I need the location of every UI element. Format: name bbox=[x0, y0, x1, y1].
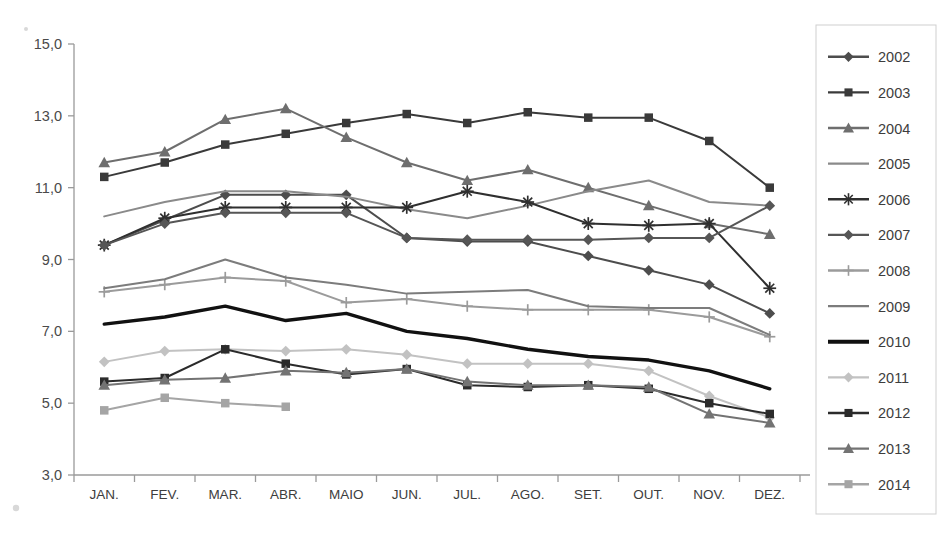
legend-label: 2002 bbox=[878, 49, 910, 65]
chart-legend: 2002200320042005200620072008200920102011… bbox=[816, 25, 936, 514]
data-point-marker-plus bbox=[522, 304, 533, 315]
x-tick-label: NOV. bbox=[693, 487, 725, 502]
y-tick-label: 13,0 bbox=[34, 108, 62, 124]
data-point-marker-square bbox=[645, 113, 654, 122]
data-point-marker-diamond bbox=[643, 265, 654, 276]
series-2014 bbox=[100, 394, 290, 415]
data-point-marker-square bbox=[844, 88, 852, 96]
data-point-marker-star bbox=[842, 193, 854, 205]
data-point-marker-square bbox=[766, 410, 775, 419]
y-tick-label: 15,0 bbox=[34, 36, 62, 52]
data-point-marker-star bbox=[642, 219, 655, 232]
data-point-marker-triangle bbox=[522, 164, 534, 174]
data-point-marker-square bbox=[403, 110, 412, 119]
data-point-marker-triangle bbox=[159, 146, 171, 156]
data-point-marker-triangle bbox=[703, 408, 715, 418]
data-point-marker-square bbox=[161, 394, 170, 403]
data-point-marker-plus bbox=[220, 272, 231, 283]
y-tick-label: 3,0 bbox=[42, 467, 62, 483]
data-point-marker-diamond bbox=[643, 365, 654, 376]
speck-dot bbox=[13, 505, 19, 511]
data-point-marker-square bbox=[221, 399, 230, 408]
data-point-marker-diamond bbox=[764, 308, 775, 319]
data-point-marker-diamond bbox=[583, 234, 594, 245]
x-tick-label: MAR. bbox=[208, 487, 242, 502]
legend-label: 2010 bbox=[878, 334, 910, 350]
data-point-marker-plus bbox=[643, 304, 654, 315]
legend-label: 2003 bbox=[878, 85, 910, 101]
x-tick-label: DEZ. bbox=[754, 487, 785, 502]
data-point-marker-diamond bbox=[583, 358, 594, 369]
data-point-marker-diamond bbox=[583, 251, 594, 262]
data-point-marker-square bbox=[100, 173, 109, 182]
data-point-marker-square bbox=[342, 119, 351, 128]
legend-label: 2012 bbox=[878, 405, 910, 421]
data-point-marker-square bbox=[705, 399, 714, 408]
data-point-marker-square bbox=[221, 140, 230, 149]
legend-label: 2009 bbox=[878, 299, 910, 315]
data-point-marker-square bbox=[463, 119, 472, 128]
series-2002 bbox=[99, 189, 775, 318]
data-point-marker-plus bbox=[704, 311, 715, 322]
data-point-marker-square bbox=[766, 183, 775, 192]
legend-label: 2011 bbox=[878, 370, 909, 386]
data-point-marker-diamond bbox=[643, 233, 654, 244]
data-point-marker-square bbox=[844, 409, 852, 417]
series-2009 bbox=[104, 260, 770, 335]
series-2011 bbox=[99, 344, 775, 423]
data-point-marker-triangle bbox=[401, 157, 413, 167]
data-point-marker-square bbox=[844, 480, 852, 488]
data-point-marker-square bbox=[524, 108, 533, 117]
y-axis: 3,05,07,09,011,013,015,0 bbox=[34, 36, 74, 483]
series-layer bbox=[98, 103, 776, 428]
x-tick-label: ABR. bbox=[270, 487, 302, 502]
data-point-marker-diamond bbox=[522, 234, 533, 245]
data-point-marker-plus bbox=[341, 297, 352, 308]
x-tick-label: AGO. bbox=[511, 487, 545, 502]
x-tick-label: JUN. bbox=[392, 487, 422, 502]
data-point-marker-triangle bbox=[340, 132, 352, 142]
legend-label: 2007 bbox=[878, 227, 910, 243]
data-point-marker-diamond bbox=[462, 234, 473, 245]
data-point-marker-diamond bbox=[280, 207, 291, 218]
legend-label: 2004 bbox=[878, 121, 910, 137]
x-axis: JAN.FEV.MAR.ABR.MAIOJUN.JUL.AGO.SET.OUT.… bbox=[74, 475, 810, 502]
data-point-marker-star bbox=[400, 201, 413, 214]
data-point-marker-diamond bbox=[401, 349, 412, 360]
chart-canvas: 3,05,07,09,011,013,015,0 JAN.FEV.MAR.ABR… bbox=[0, 0, 945, 539]
legend-label: 2008 bbox=[878, 263, 910, 279]
series-line bbox=[104, 398, 286, 411]
x-tick-label: SET. bbox=[574, 487, 603, 502]
y-tick-label: 7,0 bbox=[42, 323, 62, 339]
y-tick-label: 9,0 bbox=[42, 252, 62, 268]
data-point-marker-star bbox=[461, 185, 474, 198]
decoration-layer bbox=[13, 27, 28, 511]
series-line bbox=[104, 109, 770, 235]
y-tick-label: 11,0 bbox=[35, 180, 62, 196]
x-tick-label: OUT. bbox=[633, 487, 664, 502]
data-point-marker-diamond bbox=[341, 344, 352, 355]
data-point-marker-diamond bbox=[462, 358, 473, 369]
speck-dot bbox=[24, 27, 28, 31]
data-point-marker-diamond bbox=[704, 279, 715, 290]
series-2003 bbox=[100, 108, 774, 192]
x-tick-label: JAN. bbox=[90, 487, 119, 502]
data-point-marker-diamond bbox=[280, 346, 291, 357]
data-point-marker-diamond bbox=[159, 346, 170, 357]
series-line bbox=[104, 112, 770, 187]
x-tick-label: JUL. bbox=[453, 487, 481, 502]
data-point-marker-square bbox=[282, 130, 291, 139]
data-point-marker-triangle bbox=[280, 103, 292, 113]
data-point-marker-square bbox=[161, 158, 170, 167]
series-line bbox=[104, 260, 770, 335]
data-point-marker-diamond bbox=[704, 233, 715, 244]
x-tick-label: MAIO bbox=[329, 487, 364, 502]
data-point-marker-square bbox=[100, 406, 109, 415]
legend-label: 2013 bbox=[878, 441, 910, 457]
data-point-marker-square bbox=[221, 345, 230, 354]
data-point-marker-plus bbox=[462, 301, 473, 312]
x-tick-label: FEV. bbox=[150, 487, 179, 502]
data-point-marker-diamond bbox=[522, 358, 533, 369]
data-point-marker-square bbox=[282, 403, 291, 412]
data-point-marker-square bbox=[705, 137, 714, 146]
